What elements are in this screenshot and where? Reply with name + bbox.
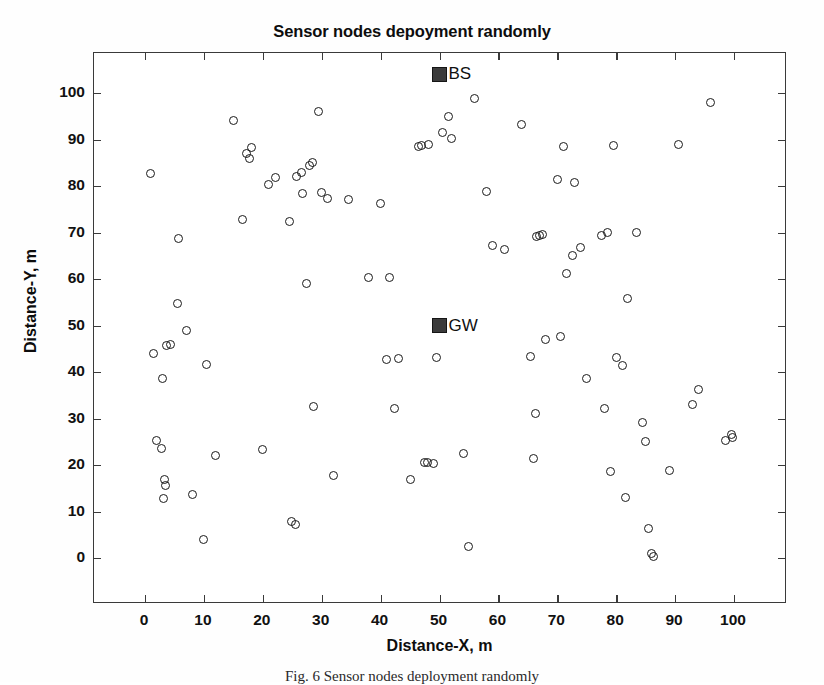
x-tick-label: 80: [607, 611, 624, 629]
sensor-node-marker: [606, 467, 615, 476]
sensor-node-marker: [199, 535, 208, 544]
x-tick-top: [204, 53, 205, 60]
sensor-node-marker: [706, 98, 715, 107]
sensor-node-marker: [641, 437, 650, 446]
sensor-node-marker: [568, 251, 577, 260]
x-tick-label: 30: [312, 611, 329, 629]
x-tick: [204, 595, 205, 602]
y-tick-right: [778, 93, 785, 94]
sensor-node-marker: [688, 400, 697, 409]
x-tick-label: 40: [371, 611, 388, 629]
sensor-node-marker: [174, 234, 183, 243]
sensor-node-marker: [623, 294, 632, 303]
x-tick-label: 60: [489, 611, 506, 629]
sensor-node-marker: [556, 332, 565, 341]
sensor-node-marker: [298, 189, 307, 198]
sensor-node-marker: [285, 217, 294, 226]
sensor-node-marker: [229, 116, 238, 125]
sensor-node-marker: [390, 404, 399, 413]
x-tick: [734, 595, 735, 602]
x-tick: [557, 595, 558, 602]
sensor-node-marker: [308, 158, 317, 167]
y-tick-label: 10: [29, 502, 85, 520]
x-tick-label: 0: [140, 611, 149, 629]
sensor-node-marker: [649, 552, 658, 561]
sensor-node-marker: [166, 340, 175, 349]
sensor-node-marker: [482, 187, 491, 196]
sensor-node-marker: [258, 445, 267, 454]
x-tick: [616, 595, 617, 602]
sensor-node-marker: [559, 142, 568, 151]
sensor-node-marker: [323, 194, 332, 203]
sensor-node-marker: [271, 173, 280, 182]
y-axis-label: Distance-Y, m: [22, 221, 40, 381]
y-tick-label: 0: [29, 548, 85, 566]
sensor-node-marker: [562, 269, 571, 278]
sensor-node-marker: [297, 168, 306, 177]
x-tick-label: 20: [253, 611, 270, 629]
sensor-node-marker: [211, 451, 220, 460]
x-tick: [145, 595, 146, 602]
plot-area: BSGW: [93, 52, 786, 603]
y-tick: [94, 93, 101, 94]
y-tick-label: 60: [29, 269, 85, 287]
y-tick: [94, 512, 101, 513]
sensor-node-marker: [694, 385, 703, 394]
sensor-node-marker: [188, 490, 197, 499]
x-tick-top: [381, 53, 382, 60]
x-tick-top: [498, 53, 499, 60]
sensor-node-marker: [576, 243, 585, 252]
sensor-node-marker: [245, 154, 254, 163]
sensor-node-marker: [488, 241, 497, 250]
x-tick-top: [616, 53, 617, 60]
y-tick: [94, 558, 101, 559]
sensor-node-marker: [447, 134, 456, 143]
x-tick: [381, 595, 382, 602]
sensor-node-marker: [158, 374, 167, 383]
sensor-node-marker: [376, 199, 385, 208]
sensor-node-marker: [429, 459, 438, 468]
sensor-node-marker: [621, 493, 630, 502]
sensor-node-marker: [570, 178, 579, 187]
figure-caption: Fig. 6 Sensor nodes deployment randomly: [0, 668, 824, 685]
y-tick-label: 90: [29, 130, 85, 148]
sensor-node-marker: [173, 299, 182, 308]
sensor-node-marker: [202, 360, 211, 369]
y-tick-label: 20: [29, 455, 85, 473]
sensor-node-marker: [541, 335, 550, 344]
x-tick-label: 10: [194, 611, 211, 629]
sensor-node-marker: [728, 433, 737, 442]
y-tick-label: 30: [29, 409, 85, 427]
x-axis-label: Distance-X, m: [93, 637, 786, 655]
y-tick-right: [778, 279, 785, 280]
x-tick-top: [145, 53, 146, 60]
y-tick-label: 40: [29, 362, 85, 380]
y-tick-right: [778, 186, 785, 187]
sensor-node-marker: [526, 352, 535, 361]
sensor-node-marker: [444, 112, 453, 121]
sensor-node-marker: [146, 169, 155, 178]
sensor-node-marker: [424, 140, 433, 149]
sensor-node-marker: [309, 402, 318, 411]
sensor-node-marker: [182, 326, 191, 335]
y-tick: [94, 233, 101, 234]
x-tick: [675, 595, 676, 602]
x-tick-label: 70: [548, 611, 565, 629]
x-tick-top: [557, 53, 558, 60]
sensor-node-marker: [538, 230, 547, 239]
x-tick-top: [440, 53, 441, 60]
y-tick: [94, 465, 101, 466]
y-tick-right: [778, 326, 785, 327]
sensor-node-marker: [553, 175, 562, 184]
bs-station-marker: [432, 67, 447, 82]
x-tick-label: 50: [430, 611, 447, 629]
sensor-node-marker: [238, 215, 247, 224]
sensor-node-marker: [364, 273, 373, 282]
y-tick: [94, 326, 101, 327]
sensor-node-marker: [600, 404, 609, 413]
sensor-node-marker: [603, 228, 612, 237]
y-tick-right: [778, 512, 785, 513]
sensor-node-marker: [459, 449, 468, 458]
sensor-node-marker: [432, 353, 441, 362]
